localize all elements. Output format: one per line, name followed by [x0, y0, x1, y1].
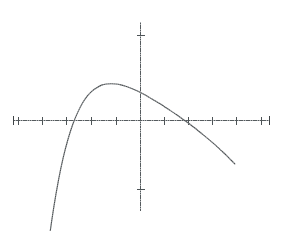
plot-canvas [0, 0, 283, 231]
figure-background [0, 0, 283, 231]
graph-figure: A cubic curve y = -k(x+3)x(x-3) rising f… [0, 0, 283, 231]
